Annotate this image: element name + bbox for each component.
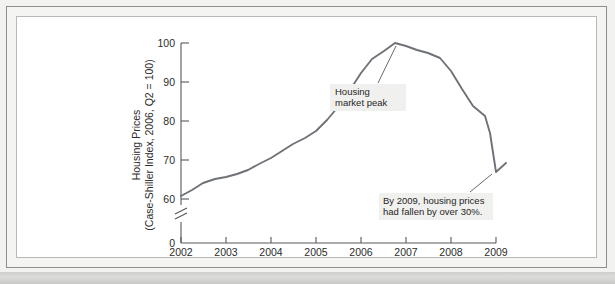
annotation-peak-line1: Housing [335,86,370,97]
x-tick-label-2009: 2009 [484,246,508,258]
y-tick-label-80: 80 [163,115,175,127]
x-tick-label-2008: 2008 [439,246,463,258]
leader-line-peak [378,46,396,83]
annotation-peak-line2: market peak [335,97,388,108]
y-axis-title-line2: (Case-Shiller Index, 2006, Q2 = 100) [143,59,155,230]
x-tick-label-2007: 2007 [394,246,418,258]
plot-area: 100 90 80 70 60 0 2002 2003 2004 2005 20… [0,0,615,284]
x-tick-label-2004: 2004 [259,246,283,258]
x-tick-label-2005: 2005 [304,246,328,258]
annotation-decline-line1: By 2009, housing prices [383,195,485,206]
chart-screenshot: 100 90 80 70 60 0 2002 2003 2004 2005 20… [0,0,615,284]
leader-line-decline [470,174,492,192]
y-tick-label-70: 70 [163,154,175,166]
x-tick-label-2006: 2006 [349,246,373,258]
x-tick-label-2002: 2002 [169,246,193,258]
x-tick-label-2003: 2003 [214,246,238,258]
line-chart: 100 90 80 70 60 0 2002 2003 2004 2005 20… [0,0,615,284]
series-line-case-shiller [181,43,506,196]
y-tick-label-90: 90 [163,76,175,88]
axis-break-icon [175,208,187,219]
y-axis-title-line1: Housing Prices [130,110,142,181]
annotation-decline-line2: had fallen by over 30%. [383,206,482,217]
annotation-price-decline: By 2009, housing prices had fallen by ov… [379,174,493,220]
y-tick-label-100: 100 [157,37,175,49]
y-tick-label-60: 60 [163,193,175,205]
annotation-housing-market-peak: Housing market peak [330,46,406,111]
